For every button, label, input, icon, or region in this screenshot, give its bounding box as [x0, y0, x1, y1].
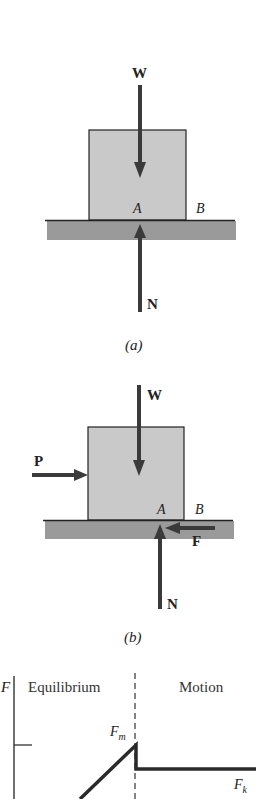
kinetic-label: Fk	[234, 778, 247, 795]
kinetic-label-main: F	[234, 777, 243, 792]
caption-a: (a)	[125, 338, 143, 353]
region-motion: Motion	[179, 680, 223, 695]
label-w-a: W	[132, 66, 147, 81]
label-n-a: N	[147, 297, 158, 312]
peak-label-main: F	[110, 724, 119, 739]
block-b	[88, 427, 184, 520]
label-f: F	[192, 534, 201, 549]
label-p: P	[34, 454, 43, 469]
peak-label: Fm	[110, 725, 126, 742]
friction-curve	[80, 745, 256, 799]
label-a-b: A	[157, 503, 166, 517]
label-w-b: W	[147, 388, 162, 403]
label-b-b: B	[195, 503, 204, 517]
kinetic-label-sub: k	[243, 784, 247, 795]
region-equilibrium: Equilibrium	[28, 680, 101, 695]
label-a-a: A	[133, 202, 142, 216]
y-axis-label: F	[1, 680, 10, 695]
label-n-b: N	[167, 597, 178, 612]
diagram-a	[45, 85, 236, 312]
label-b-a: B	[196, 202, 205, 216]
peak-label-sub: m	[119, 731, 126, 742]
caption-b: (b)	[124, 630, 142, 645]
diagram-b	[32, 385, 234, 609]
